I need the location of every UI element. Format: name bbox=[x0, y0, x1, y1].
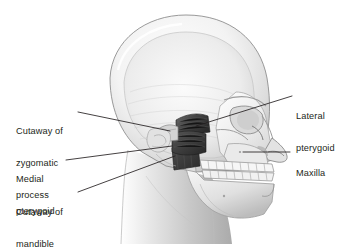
teeth bbox=[200, 160, 274, 181]
label-line-1: Cutaway of bbox=[16, 126, 63, 137]
label-line-1: Medial bbox=[16, 174, 55, 185]
facial-skeleton bbox=[216, 92, 287, 170]
label-line-1: Lateral bbox=[296, 111, 335, 122]
label-line-1: Cutaway of bbox=[16, 207, 63, 218]
label-maxilla: Maxilla bbox=[296, 147, 325, 200]
label-cutaway-of-mandible: Cutaway of mandible bbox=[16, 186, 63, 251]
label-line-2: mandible bbox=[16, 239, 63, 250]
label-line-1: Maxilla bbox=[296, 168, 325, 179]
